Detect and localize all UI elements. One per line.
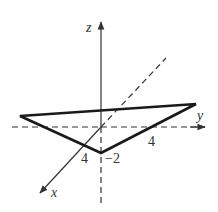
y-intercept-label: 4 — [148, 134, 155, 149]
z-axis-label: z — [85, 20, 92, 35]
triangle — [20, 104, 196, 153]
x-axis-label: x — [50, 185, 58, 200]
x-axis-negative-dashed — [101, 58, 166, 127]
coordinate-diagram: z y x 4 4 −2 — [0, 0, 218, 212]
x-axis — [40, 127, 101, 193]
y-axis-label: y — [195, 108, 204, 123]
x-intercept-label: 4 — [81, 151, 88, 166]
z-intercept-label: −2 — [105, 151, 120, 166]
